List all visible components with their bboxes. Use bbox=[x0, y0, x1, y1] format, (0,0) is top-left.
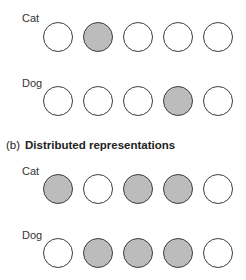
section-b-title: Distributed representations bbox=[25, 139, 175, 151]
inactive-unit-circle-icon bbox=[123, 86, 153, 116]
unit-row-dog-a bbox=[43, 86, 235, 116]
inactive-unit-circle-icon bbox=[203, 22, 233, 52]
row-label-cat-a: Cat bbox=[22, 12, 39, 24]
row-label-dog-b: Dog bbox=[22, 229, 42, 241]
section-b-prefix: (b) bbox=[6, 139, 20, 151]
inactive-unit-circle-icon bbox=[83, 174, 113, 204]
active-unit-circle-icon bbox=[123, 174, 153, 204]
section-b-heading: (b)Distributed representations bbox=[6, 139, 175, 152]
active-unit-circle-icon bbox=[123, 238, 153, 268]
inactive-unit-circle-icon bbox=[123, 22, 153, 52]
inactive-unit-circle-icon bbox=[43, 86, 73, 116]
inactive-unit-circle-icon bbox=[203, 174, 233, 204]
active-unit-circle-icon bbox=[83, 22, 113, 52]
active-unit-circle-icon bbox=[163, 174, 193, 204]
active-unit-circle-icon bbox=[163, 238, 193, 268]
inactive-unit-circle-icon bbox=[43, 22, 73, 52]
active-unit-circle-icon bbox=[163, 86, 193, 116]
inactive-unit-circle-icon bbox=[43, 238, 73, 268]
inactive-unit-circle-icon bbox=[203, 86, 233, 116]
row-label-dog-a: Dog bbox=[22, 77, 42, 89]
inactive-unit-circle-icon bbox=[203, 238, 233, 268]
row-label-cat-b: Cat bbox=[22, 165, 39, 177]
active-unit-circle-icon bbox=[43, 174, 73, 204]
inactive-unit-circle-icon bbox=[83, 86, 113, 116]
unit-row-cat-a bbox=[43, 22, 235, 52]
unit-row-dog-b bbox=[43, 238, 235, 268]
active-unit-circle-icon bbox=[83, 238, 113, 268]
inactive-unit-circle-icon bbox=[163, 22, 193, 52]
unit-row-cat-b bbox=[43, 174, 235, 204]
